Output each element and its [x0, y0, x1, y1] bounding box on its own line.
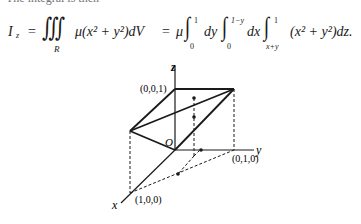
point-label-0-0-1: (0,0,1) — [140, 83, 167, 95]
z-axis-label: z — [170, 60, 176, 74]
x-axis-label: x — [111, 198, 118, 212]
origin-label: O — [165, 136, 173, 148]
tetrahedron-region-diagram: z y x O (0,0,1) (0,1,0) (1,0,0) — [0, 0, 361, 224]
point-label-0-1-0: (0,1,0) — [232, 153, 259, 165]
point-label-1-0-0: (1,0,0) — [135, 194, 162, 206]
